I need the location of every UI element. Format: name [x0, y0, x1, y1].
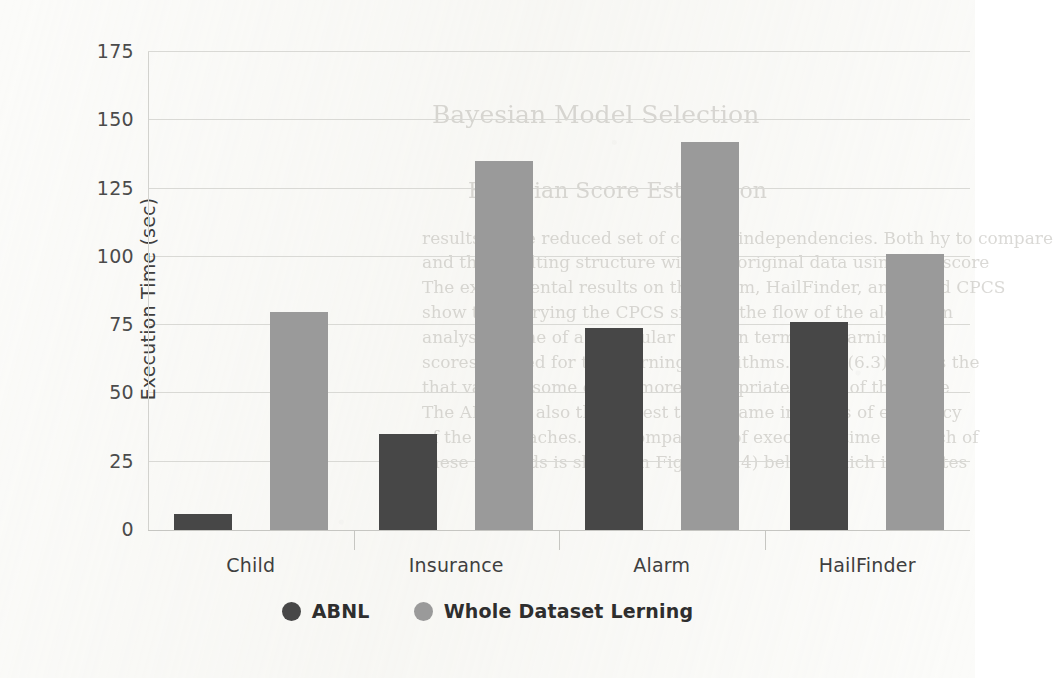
x-axis-category-label: Child [226, 554, 275, 576]
bar-groups: ChildInsuranceAlarmHailFinder [148, 52, 970, 530]
y-axis-tick-label: 125 [97, 177, 134, 199]
x-axis-category-label: Alarm [633, 554, 690, 576]
y-axis-tick-label: 75 [109, 313, 134, 335]
legend-label: Whole Dataset Lerning [444, 600, 694, 622]
legend-swatch-circle-icon [414, 602, 433, 621]
x-axis-category-label: Insurance [409, 554, 504, 576]
y-axis-tick-label: 100 [97, 245, 134, 267]
bar-group: Insurance [354, 52, 560, 530]
y-axis-tick-label: 150 [97, 108, 134, 130]
bar[interactable] [886, 254, 944, 530]
bar[interactable] [790, 322, 848, 530]
x-axis-category-label: HailFinder [819, 554, 916, 576]
bar[interactable] [174, 514, 232, 530]
bar[interactable] [681, 142, 739, 530]
legend-item[interactable]: ABNL [282, 600, 370, 622]
plot-area: 0255075100125150175 ChildInsuranceAlarmH… [148, 52, 970, 530]
y-axis-tick-label: 50 [109, 381, 134, 403]
bar-group: Alarm [559, 52, 765, 530]
chart-legend: ABNLWhole Dataset Lerning [0, 600, 975, 622]
bar[interactable] [475, 161, 533, 530]
bar[interactable] [379, 434, 437, 530]
legend-item[interactable]: Whole Dataset Lerning [414, 600, 694, 622]
y-axis-tick-label: 0 [122, 518, 134, 540]
bar-group: HailFinder [765, 52, 971, 530]
bar[interactable] [585, 328, 643, 530]
bar-group: Child [148, 52, 354, 530]
legend-label: ABNL [312, 600, 370, 622]
y-axis-tick-label: 175 [97, 40, 134, 62]
bar[interactable] [270, 312, 328, 531]
legend-swatch-circle-icon [282, 602, 301, 621]
y-axis-tick-label: 25 [109, 450, 134, 472]
